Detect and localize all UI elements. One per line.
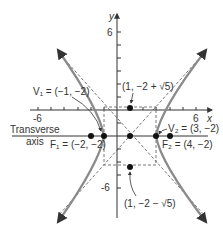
f2-label: F₂ = (4, −2) <box>162 139 213 150</box>
v1-label: V₁ = (−1, −2) <box>33 86 89 97</box>
y-axis <box>117 14 121 218</box>
y-tick-neg6: -6 <box>101 182 110 193</box>
top-point-label: (1, −2 + √5) <box>122 81 174 92</box>
bottom-point-label: (1, −2 − √5) <box>124 198 176 209</box>
y-axis-label: y <box>108 11 115 22</box>
center-point <box>127 133 133 139</box>
y-tick-6: 6 <box>107 27 113 38</box>
transverse-axis-label-2: axis <box>26 136 44 147</box>
vertex-v2-point <box>153 133 159 139</box>
top-point <box>127 105 133 111</box>
points <box>88 105 173 170</box>
bottom-point <box>127 164 133 170</box>
f1-label: F₁ = (−2, −2) <box>50 139 106 150</box>
x-axis <box>30 107 212 110</box>
v2-label: V₂ = (3, −2) <box>168 123 219 134</box>
transverse-axis-label: Transverse <box>10 124 60 135</box>
x-tick-neg6: -6 <box>33 113 42 124</box>
hyperbola-diagram: y 6 -6 -6 6 x Transverse axis V₁ = (−1, … <box>0 0 223 238</box>
